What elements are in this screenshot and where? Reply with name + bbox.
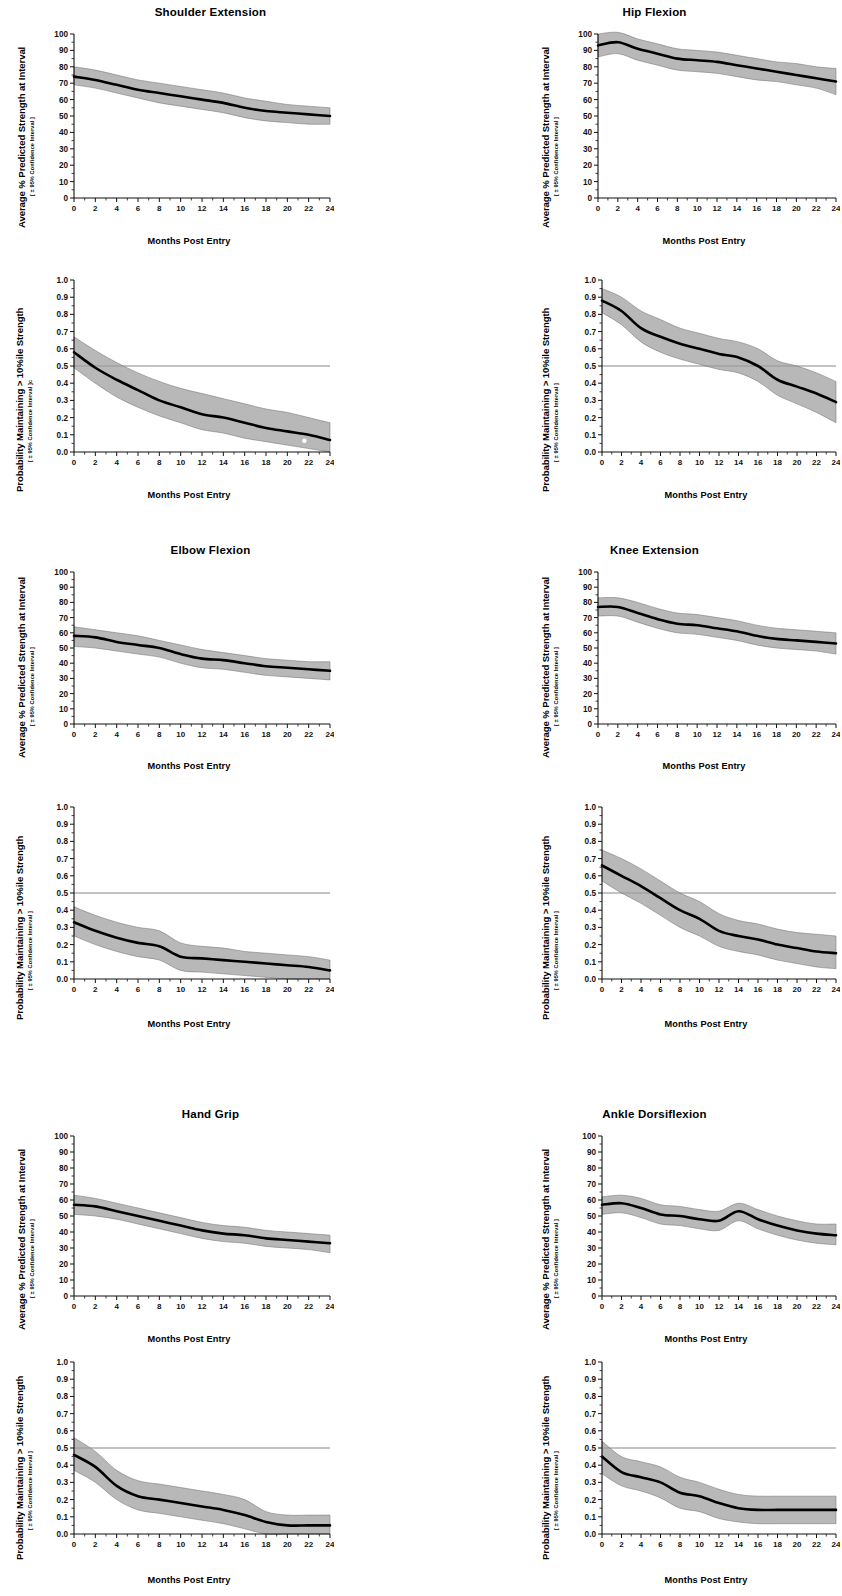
plot-area: 0102030405060708090100024681012141618202… xyxy=(568,28,840,218)
svg-text:24: 24 xyxy=(832,1540,840,1549)
svg-text:12: 12 xyxy=(198,458,207,467)
svg-text:0.6: 0.6 xyxy=(57,1427,69,1436)
svg-text:1.0: 1.0 xyxy=(585,1358,597,1367)
svg-text:2: 2 xyxy=(93,730,98,739)
svg-text:0.3: 0.3 xyxy=(57,923,69,932)
svg-text:10: 10 xyxy=(176,458,185,467)
panel-shoulder-extension-strength: Shoulder Extension Average % Predicted S… xyxy=(0,0,421,258)
svg-text:100: 100 xyxy=(578,30,592,39)
svg-text:16: 16 xyxy=(240,1540,249,1549)
svg-text:1.0: 1.0 xyxy=(57,1358,69,1367)
x-axis-label: Months Post Entry xyxy=(44,1575,334,1585)
svg-text:90: 90 xyxy=(583,46,593,55)
svg-text:2: 2 xyxy=(619,1540,624,1549)
svg-text:0.8: 0.8 xyxy=(57,310,69,319)
svg-text:0.4: 0.4 xyxy=(57,1461,69,1470)
svg-text:4: 4 xyxy=(114,1540,119,1549)
svg-text:10: 10 xyxy=(176,204,185,213)
svg-text:14: 14 xyxy=(734,1302,743,1311)
plot-area: 0102030405060708090100024681012141618202… xyxy=(572,1130,840,1316)
svg-text:8: 8 xyxy=(678,458,683,467)
svg-text:0.3: 0.3 xyxy=(57,1478,69,1487)
panel-hip-flexion-probability: Probability Maintaining > 10%ile Strengt… xyxy=(421,258,842,530)
svg-text:10: 10 xyxy=(587,1276,597,1285)
svg-text:16: 16 xyxy=(754,458,763,467)
svg-text:24: 24 xyxy=(326,1540,334,1549)
svg-text:2: 2 xyxy=(619,985,624,994)
svg-text:50: 50 xyxy=(59,1212,69,1221)
svg-text:0.1: 0.1 xyxy=(57,958,69,967)
svg-text:6: 6 xyxy=(658,1540,663,1549)
svg-text:0.1: 0.1 xyxy=(57,431,69,440)
svg-text:22: 22 xyxy=(304,730,313,739)
y-axis-label-main: Probability Maintaining > 10%ile Strengt… xyxy=(14,836,25,1020)
svg-text:2: 2 xyxy=(619,1302,624,1311)
svg-text:22: 22 xyxy=(812,985,821,994)
y-axis-label-main: Probability Maintaining > 10%ile Strengt… xyxy=(540,308,551,492)
svg-text:0.3: 0.3 xyxy=(585,1478,597,1487)
plot-area: 0102030405060708090100024681012141618202… xyxy=(44,1130,334,1316)
svg-text:0.5: 0.5 xyxy=(585,889,597,898)
panel-knee-extension-strength: Knee Extension Average % Predicted Stren… xyxy=(421,530,842,775)
svg-text:10: 10 xyxy=(693,730,702,739)
svg-text:100: 100 xyxy=(54,1132,68,1141)
svg-text:100: 100 xyxy=(582,1132,596,1141)
chart-title-knee-extension: Knee Extension xyxy=(421,544,842,556)
svg-text:24: 24 xyxy=(326,985,334,994)
svg-text:1.0: 1.0 xyxy=(57,803,69,812)
svg-text:2: 2 xyxy=(93,985,98,994)
svg-text:14: 14 xyxy=(732,204,741,213)
svg-text:20: 20 xyxy=(283,730,292,739)
svg-text:30: 30 xyxy=(583,674,593,683)
svg-text:20: 20 xyxy=(283,985,292,994)
svg-text:0.2: 0.2 xyxy=(57,1496,69,1505)
svg-text:0.3: 0.3 xyxy=(57,396,69,405)
svg-text:14: 14 xyxy=(732,730,741,739)
svg-text:20: 20 xyxy=(792,730,801,739)
svg-text:0.8: 0.8 xyxy=(57,837,69,846)
svg-text:0.9: 0.9 xyxy=(57,293,69,302)
svg-text:0: 0 xyxy=(72,1540,77,1549)
svg-text:20: 20 xyxy=(583,161,593,170)
svg-text:0.0: 0.0 xyxy=(585,975,597,984)
svg-text:0.5: 0.5 xyxy=(57,1444,69,1453)
svg-text:0.6: 0.6 xyxy=(57,345,69,354)
svg-text:16: 16 xyxy=(754,1302,763,1311)
svg-text:8: 8 xyxy=(678,1302,683,1311)
svg-text:2: 2 xyxy=(93,204,98,213)
svg-text:16: 16 xyxy=(754,985,763,994)
svg-text:0.9: 0.9 xyxy=(585,293,597,302)
svg-text:0.6: 0.6 xyxy=(585,345,597,354)
svg-text:20: 20 xyxy=(583,690,593,699)
panel-shoulder-extension-probability: Probability Maintaining > 10%ile Strengt… xyxy=(0,258,421,530)
svg-text:0.4: 0.4 xyxy=(57,379,69,388)
svg-text:12: 12 xyxy=(198,985,207,994)
svg-text:0.9: 0.9 xyxy=(57,1375,69,1384)
svg-text:80: 80 xyxy=(583,598,593,607)
y-axis-label-sub: [ ± 95% Confidence Interval ] xyxy=(553,117,559,196)
svg-text:6: 6 xyxy=(655,204,660,213)
plot-area: 0.00.10.20.30.40.50.60.70.80.91.00246810… xyxy=(44,274,334,472)
svg-text:12: 12 xyxy=(198,730,207,739)
svg-text:22: 22 xyxy=(812,458,821,467)
svg-text:0.4: 0.4 xyxy=(585,906,597,915)
svg-text:60: 60 xyxy=(587,1196,597,1205)
svg-text:2: 2 xyxy=(93,458,98,467)
svg-text:10: 10 xyxy=(176,985,185,994)
svg-text:0.2: 0.2 xyxy=(57,414,69,423)
svg-text:8: 8 xyxy=(675,730,680,739)
svg-text:22: 22 xyxy=(304,1540,313,1549)
svg-text:18: 18 xyxy=(262,1540,271,1549)
x-axis-label: Months Post Entry xyxy=(44,1019,334,1029)
x-axis-label: Months Post Entry xyxy=(44,490,334,500)
x-axis-label: Months Post Entry xyxy=(568,236,840,246)
y-axis-label-main: Average % Predicted Strength at Interval xyxy=(540,1149,551,1330)
svg-text:50: 50 xyxy=(59,644,69,653)
svg-text:8: 8 xyxy=(157,204,162,213)
svg-text:16: 16 xyxy=(240,458,249,467)
svg-text:0.8: 0.8 xyxy=(585,1392,597,1401)
svg-text:20: 20 xyxy=(283,204,292,213)
svg-text:18: 18 xyxy=(773,1302,782,1311)
svg-text:22: 22 xyxy=(812,204,821,213)
svg-text:0: 0 xyxy=(600,1302,605,1311)
